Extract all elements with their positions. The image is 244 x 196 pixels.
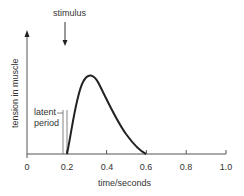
x-axis-label: time/seconds <box>98 178 151 188</box>
latent-label-line2: period <box>34 118 59 128</box>
x-tick-label: 0 <box>24 162 29 172</box>
stimulus-arrow-icon <box>63 40 68 46</box>
y-axis-label: tension in muscle <box>10 58 20 128</box>
x-tick-label: 0.8 <box>180 162 193 172</box>
tension-curve <box>67 75 146 154</box>
twitch-chart <box>0 0 244 196</box>
stimulus-label: stimulus <box>53 8 86 18</box>
latent-label-line1: latent <box>34 107 56 117</box>
y-axis-arrow-icon <box>25 30 30 37</box>
x-tick-label: 0.6 <box>140 162 153 172</box>
x-tick-label: 0.2 <box>61 162 74 172</box>
x-tick-label: 1.0 <box>220 162 233 172</box>
x-tick-label: 0.4 <box>101 162 114 172</box>
